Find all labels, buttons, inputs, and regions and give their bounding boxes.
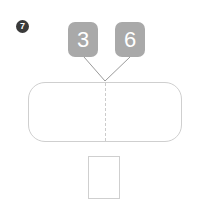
part-tile-1[interactable]: 3 (68, 22, 98, 57)
connector-line-left (84, 57, 105, 81)
connector-line-right (105, 57, 130, 81)
part-tile-2[interactable]: 6 (115, 22, 145, 57)
question-number-badge: 7 (16, 20, 29, 33)
worksheet-canvas: 7 3 6 (0, 0, 199, 204)
answer-box[interactable] (88, 156, 120, 199)
bar-model-divider (105, 83, 106, 141)
